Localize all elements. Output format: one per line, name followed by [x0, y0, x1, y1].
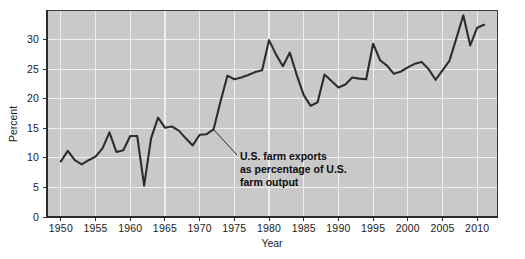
x-tick-label-1950: 1950 [49, 222, 73, 234]
x-tick-label-1995: 1995 [361, 222, 385, 234]
annotation-line-3: farm output [240, 176, 299, 188]
x-tick-label-2000: 2000 [396, 222, 420, 234]
x-tick-label-1955: 1955 [83, 222, 107, 234]
x-axis-tick-marks [61, 217, 477, 221]
x-axis-tick-labels: 1950195519601965197019751980198519901995… [49, 222, 489, 234]
y-tick-label-5: 5 [33, 181, 39, 193]
y-tick-label-0: 0 [33, 211, 39, 223]
x-tick-label-1970: 1970 [188, 222, 212, 234]
y-tick-label-10: 10 [27, 151, 39, 163]
x-tick-label-2005: 2005 [430, 222, 454, 234]
x-tick-label-1980: 1980 [257, 222, 281, 234]
annotation-line-2: as percentage of U.S. [240, 163, 347, 175]
x-tick-label-1975: 1975 [222, 222, 246, 234]
chart-container: 051015202530 195019551960196519701975198… [0, 0, 525, 259]
y-tick-label-30: 30 [27, 33, 39, 45]
annotation-line-1: U.S. farm exports [240, 150, 327, 162]
y-tick-label-15: 15 [27, 122, 39, 134]
y-axis-title: Percent [7, 106, 19, 142]
x-axis-title: Year [261, 237, 283, 249]
y-axis-tick-labels: 051015202530 [27, 33, 39, 222]
y-tick-label-25: 25 [27, 63, 39, 75]
x-tick-label-1990: 1990 [326, 222, 350, 234]
farm-exports-line-chart: 051015202530 195019551960196519701975198… [0, 0, 525, 259]
x-tick-label-2010: 2010 [465, 222, 489, 234]
x-tick-label-1985: 1985 [292, 222, 316, 234]
x-tick-label-1965: 1965 [153, 222, 177, 234]
y-tick-label-20: 20 [27, 92, 39, 104]
x-tick-label-1960: 1960 [118, 222, 142, 234]
